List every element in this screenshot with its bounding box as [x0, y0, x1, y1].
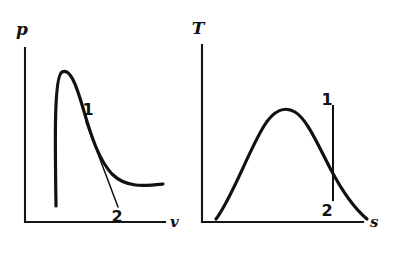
- pv-x-axis-label: v: [170, 213, 179, 231]
- ts-state-2-label: 2: [321, 201, 332, 220]
- thermodynamic-diagram-figure: p v 1 2 T s 1 2: [0, 0, 408, 256]
- pressure-volume-diagram: p v 1 2: [16, 19, 179, 231]
- ts-process-curve: [216, 109, 367, 219]
- pv-state-line: [86, 122, 118, 207]
- ts-y-axis-label: T: [192, 18, 206, 38]
- pv-process-curve: [55, 71, 163, 206]
- pv-state-1-label: 1: [82, 100, 93, 119]
- ts-state-1-label: 1: [321, 90, 332, 109]
- figure-canvas: p v 1 2 T s 1 2: [0, 0, 408, 256]
- temperature-entropy-diagram: T s 1 2: [192, 18, 379, 231]
- pv-y-axis-label: p: [16, 19, 28, 39]
- ts-x-axis-label: s: [370, 213, 379, 231]
- pv-state-2-label: 2: [111, 207, 122, 226]
